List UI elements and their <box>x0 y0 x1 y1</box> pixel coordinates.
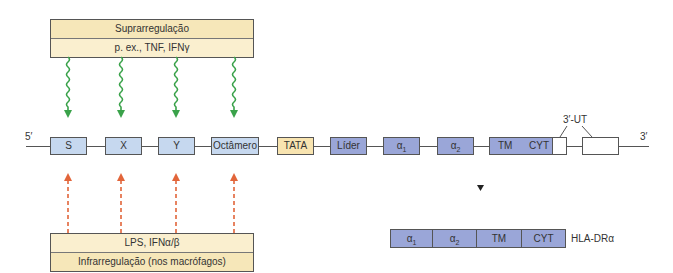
processing-arrowhead-icon <box>477 185 484 191</box>
wavy-arrow-y <box>175 57 178 111</box>
wavy-arrow-s <box>67 57 70 111</box>
promoter-s-box: S <box>50 137 87 155</box>
alpha1-subscript: 1 <box>402 146 406 153</box>
exon-cyt-label: CYT <box>529 138 549 154</box>
wavy-arrow-octamer <box>233 57 236 111</box>
three-prime-label: 3′ <box>640 131 647 142</box>
exon-alpha2: α2 <box>437 137 474 155</box>
five-prime-label: 5′ <box>25 131 32 142</box>
protein-name-label: HLA-DRα <box>571 233 614 244</box>
utr-label: 3′-UT <box>563 114 587 125</box>
promoter-y-box: Y <box>158 137 195 155</box>
exon-alpha1: α1 <box>383 137 420 155</box>
downregulation-arrows <box>68 180 234 233</box>
utr-box-1 <box>552 137 567 155</box>
utr-box-2 <box>582 137 619 155</box>
protein-alpha2-domain: α2 <box>432 229 477 248</box>
exon-tm-label: TM <box>498 138 512 154</box>
protein-cyt-domain: CYT <box>521 229 566 248</box>
protein-alpha2-subscript: 2 <box>455 239 459 246</box>
wavy-arrow-group <box>67 57 236 111</box>
promoter-x-box: X <box>105 137 142 155</box>
exon-leader: Líder <box>330 137 367 155</box>
downregulation-box: LPS, IFNα/β Infrarregulação (nos macrófa… <box>50 233 254 272</box>
downregulation-title: Infrarregulação (nos macrófagos) <box>51 253 253 271</box>
alpha2-subscript: 2 <box>456 146 460 153</box>
downregulation-examples: LPS, IFNα/β <box>51 234 253 253</box>
protein-alpha1-domain: α1 <box>390 229 433 248</box>
protein-alpha1-subscript: 1 <box>412 239 416 246</box>
utr-brackets <box>560 126 592 137</box>
exon-tm-cyt: TM CYT <box>489 137 553 155</box>
protein-tm-domain: TM <box>476 229 522 248</box>
tata-box: TATA <box>277 137 314 155</box>
wavy-arrow-x <box>120 57 123 111</box>
promoter-octamer-box: Octâmero <box>211 137 259 155</box>
